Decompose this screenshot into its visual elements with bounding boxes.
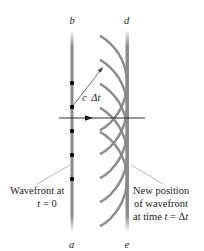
wavelet-arc (100, 108, 127, 203)
label-e: e (125, 239, 130, 250)
caption-right-line1: New position (133, 185, 190, 196)
c-dt-label: c Δt (82, 92, 101, 103)
right-leader-line (131, 165, 163, 184)
wavelet-arc (100, 84, 127, 179)
left-leader-line (37, 165, 70, 184)
source-point-dot (70, 81, 74, 85)
caption-new-wavefront: New position of wavefront at time t = Δt (133, 185, 192, 222)
source-point-dot (70, 177, 74, 181)
caption-initial-wavefront: Wavefront at t = 0 (10, 185, 67, 209)
caption-right-line3: at time t = Δt (133, 211, 189, 222)
c-dt-arrowhead-icon (98, 67, 103, 73)
wavelet-arc (100, 36, 127, 131)
c-symbol: c (82, 92, 87, 103)
dt-symbol: Δt (90, 92, 101, 103)
label-b: b (70, 15, 75, 26)
source-point-dot (70, 129, 74, 133)
huygens-diagram: b d a e c Δt Wavefront at t = 0 New posi… (0, 0, 204, 251)
wavelet-arc (100, 60, 127, 155)
label-d: d (124, 15, 130, 26)
caption-left-line1: Wavefront at (10, 185, 64, 196)
huygens-wavelets (100, 36, 127, 227)
caption-right-line2: of wavefront (134, 198, 188, 209)
caption-left-line2: t = 0 (37, 198, 56, 209)
ray-arrowhead-icon (85, 115, 93, 120)
wavelet-arc (100, 132, 127, 227)
label-a: a (69, 239, 74, 250)
source-point-dot (70, 105, 74, 109)
source-point-dot (70, 153, 74, 157)
